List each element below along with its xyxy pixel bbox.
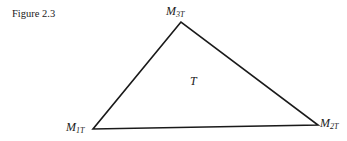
vertex-label-m3t: M3T — [166, 4, 184, 19]
vertex-label-m1t: M1T — [66, 120, 84, 135]
vertex-label-m2t: M2T — [320, 116, 338, 131]
triangle-diagram — [0, 0, 347, 141]
interior-label-t: T — [190, 74, 197, 89]
triangle-t — [93, 22, 318, 129]
